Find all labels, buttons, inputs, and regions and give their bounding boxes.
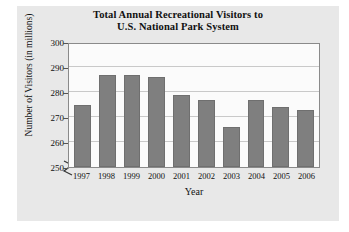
x-tick-label: 2004	[244, 171, 269, 181]
y-tick-mark	[63, 168, 68, 169]
x-tick-label: 2000	[144, 171, 169, 181]
bar-slot	[219, 44, 244, 167]
x-tick-label: 2005	[269, 171, 294, 181]
y-tick-label: 290	[30, 63, 64, 73]
bar-2000[interactable]	[148, 77, 165, 167]
x-tick-label: 2002	[194, 171, 219, 181]
y-tick-label: 260	[30, 138, 64, 148]
bar-slot	[293, 44, 318, 167]
plot-area	[68, 43, 320, 168]
x-axis-tick-labels: 1997199819992000200120022003200420052006	[68, 171, 320, 181]
x-tick-label: 1998	[94, 171, 119, 181]
x-tick-label: 2003	[219, 171, 244, 181]
bar-2003[interactable]	[223, 127, 240, 167]
y-tick-mark	[63, 43, 68, 44]
bar-slot	[144, 44, 169, 167]
bar-slot	[268, 44, 293, 167]
x-axis-title: Year	[68, 186, 320, 197]
bar-1998[interactable]	[99, 75, 116, 168]
bar-slot	[120, 44, 145, 167]
y-tick-mark	[63, 93, 68, 94]
y-tick-label: 250	[30, 163, 64, 173]
y-axis-title: Number of Visitors (in millions)	[24, 0, 34, 150]
bar-series	[69, 44, 319, 167]
chart-page: Total Annual Recreational Visitors to U.…	[0, 0, 349, 232]
bar-slot	[95, 44, 120, 167]
x-tick-label: 1999	[119, 171, 144, 181]
y-tick-mark	[63, 143, 68, 144]
bar-slot	[169, 44, 194, 167]
y-tick-mark	[63, 68, 68, 69]
chart-title: Total Annual Recreational Visitors to U.…	[17, 9, 339, 33]
x-tick-label: 2001	[169, 171, 194, 181]
bar-2001[interactable]	[173, 95, 190, 168]
bar-2006[interactable]	[297, 110, 314, 168]
bar-1997[interactable]	[74, 105, 91, 168]
bar-2004[interactable]	[248, 100, 265, 168]
bar-slot	[194, 44, 219, 167]
x-tick-label: 1997	[69, 171, 94, 181]
y-tick-mark	[63, 118, 68, 119]
bar-1999[interactable]	[124, 75, 141, 168]
y-tick-label: 300	[30, 38, 64, 48]
y-tick-label: 280	[30, 88, 64, 98]
x-tick-label: 2006	[294, 171, 319, 181]
bar-2002[interactable]	[198, 100, 215, 168]
y-tick-label: 270	[30, 113, 64, 123]
bar-slot	[70, 44, 95, 167]
chart-title-line-1: Total Annual Recreational Visitors to	[17, 9, 339, 21]
chart-title-line-2: U.S. National Park System	[17, 21, 339, 33]
bar-slot	[244, 44, 269, 167]
bar-2005[interactable]	[272, 107, 289, 167]
